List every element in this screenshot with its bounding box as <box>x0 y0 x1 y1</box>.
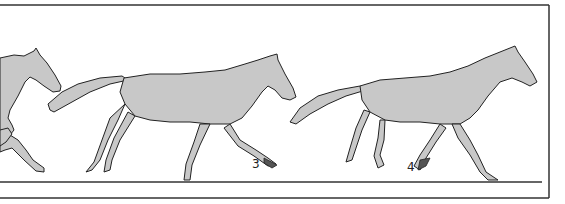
frame-label-4: 4 <box>407 160 415 174</box>
hoof-frame-4 <box>418 158 430 170</box>
figure-canvas <box>0 0 565 204</box>
horse-gait-figure: 3 4 <box>0 0 565 204</box>
frame-label-3: 3 <box>252 157 260 171</box>
